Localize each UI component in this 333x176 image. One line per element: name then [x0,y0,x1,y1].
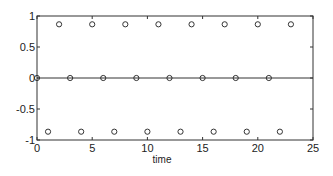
y-tick-label: 0.5 [20,41,35,53]
x-axis-label: time [153,154,172,165]
x-tick-label: 10 [141,142,153,154]
scatter-chart: 051015202510.50-0.5-1 time [0,0,333,176]
x-tick-label: 20 [252,142,264,154]
y-tick-label: -1 [25,134,35,146]
x-tick-label: 25 [307,142,319,154]
y-tick-label: -0.5 [16,103,35,115]
x-tick-label: 15 [196,142,208,154]
y-tick-label: 1 [29,10,35,22]
x-tick-label: 5 [89,142,95,154]
